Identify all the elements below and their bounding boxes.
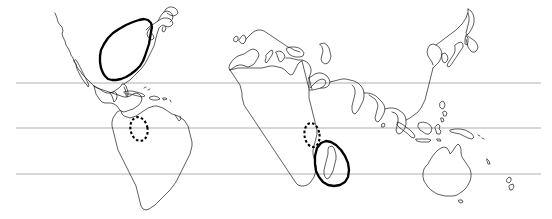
world-distribution-map: World map with highlighted distribution … (0, 0, 552, 219)
map-canvas (0, 0, 552, 219)
